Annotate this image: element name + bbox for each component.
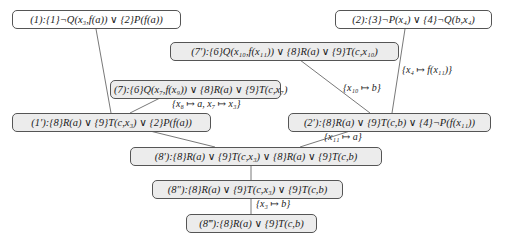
resolution-diagram: (1):{1}¬Q(x₃,f(a)) ∨ {2}P(f(a)) (2):{3}¬…	[0, 0, 506, 249]
edge-label-n8pp-n8ppp: {x₃ ↦ b}	[256, 198, 290, 209]
edge-n1-n1p	[96, 29, 111, 113]
node-7: (7):{6}Q(x₇,f(x₉)) ∨ {8}R(a) ∨ {9}T(c,x₇…	[110, 80, 281, 99]
edge-label-n2p-n8p: {x₁₁ ↦ a}	[324, 131, 362, 142]
node-2-prime: (2′):{8}R(a) ∨ {9}T(c,b) ∨ {4}¬P(f(x₁₁))	[288, 113, 491, 132]
node-8-prime: (8′):{8}R(a) ∨ {9}T(c,x₃) ∨ {8}R(a) ∨ {9…	[130, 147, 382, 166]
node-8-triple-prime: (8‴):{8}R(a) ∨ {9}T(c,b)	[186, 214, 317, 233]
edge-n7-n1p	[130, 98, 160, 113]
node-1: (1):{1}¬Q(x₃,f(a)) ∨ {2}P(f(a))	[12, 10, 181, 29]
node-1-prime: (1′):{8}R(a) ∨ {9}T(c,x₃) ∨ {2}P(f(a))	[12, 113, 211, 132]
edge-label-n7-n1p: {x₈ ↦ a, x₇ ↦ x₃}	[172, 98, 241, 109]
edge-n1p-n8p	[150, 131, 215, 147]
edge-label-n7p-n2p: {x₁₀ ↦ b}	[343, 82, 381, 93]
node-7-prime: (7′):{6}Q(x₁₀,f(x₁₁)) ∨ {8}R(a) ∨ {9}T(c…	[170, 42, 399, 61]
node-8-double-prime: (8″):{8}R(a) ∨ {9}T(c,x₃) ∨ {9}T(c,b)	[152, 180, 343, 199]
edge-label-n2-n2p: {x₄ ↦ f(x₁₁)}	[402, 64, 452, 75]
node-2: (2):{3}¬P(x₄) ∨ {4}¬Q(b,x₄)	[335, 10, 492, 29]
